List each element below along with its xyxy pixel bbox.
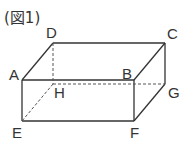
vertex-label-e: E [12,124,22,141]
edge-FG [134,84,165,121]
vertex-label-b: B [122,65,132,82]
vertex-label-h: H [54,84,65,101]
edge-HE [22,84,53,121]
vertex-label-c: C [167,25,178,42]
edge-BC [134,43,165,80]
vertex-label-f: F [130,124,139,141]
vertex-label-a: A [9,66,19,83]
vertex-label-g: G [168,84,180,101]
visible-edges [22,43,165,121]
rectangular-prism-diagram: D C A B H G E F [0,0,192,148]
edge-AD [22,43,53,80]
vertex-label-d: D [46,24,57,41]
